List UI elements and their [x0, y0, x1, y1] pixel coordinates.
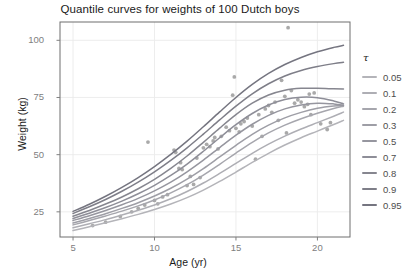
legend-key-line-icon [362, 124, 377, 126]
legend-item[interactable]: 0.2 [362, 101, 420, 117]
legend-item[interactable]: 0.8 [362, 165, 420, 181]
legend-items: 0.050.10.20.30.50.70.80.90.95 [362, 69, 420, 213]
legend-item[interactable]: 0.95 [362, 197, 420, 213]
x-tick-label: 5 [58, 242, 88, 253]
legend-item[interactable]: 0.7 [362, 149, 420, 165]
legend-title: τ [363, 52, 420, 63]
legend-item[interactable]: 0.9 [362, 181, 420, 197]
x-tick-label: 10 [139, 242, 169, 253]
legend-item-label: 0.9 [383, 184, 396, 195]
legend-key-line-icon [362, 92, 377, 94]
legend-key-line-icon [362, 108, 377, 110]
legend-item-label: 0.95 [383, 200, 402, 211]
legend-item-label: 0.7 [383, 152, 396, 163]
x-tick-label: 15 [221, 242, 251, 253]
legend-item-label: 0.8 [383, 168, 396, 179]
legend-item-label: 0.05 [383, 72, 402, 83]
legend-item-label: 0.5 [383, 136, 396, 147]
legend-key-line-icon [362, 172, 377, 174]
legend-item-label: 0.3 [383, 120, 396, 131]
legend-key-line-icon [362, 156, 377, 158]
legend-item-label: 0.1 [383, 88, 396, 99]
quantile-curve-chart: Quantile curves for weights of 100 Dutch… [0, 0, 420, 276]
legend: τ 0.050.10.20.30.50.70.80.90.95 [362, 52, 420, 213]
legend-key-line-icon [362, 204, 377, 206]
legend-item[interactable]: 0.3 [362, 117, 420, 133]
legend-item-label: 0.2 [383, 104, 396, 115]
legend-key-line-icon [362, 188, 377, 190]
legend-key-line-icon [362, 76, 377, 78]
legend-item[interactable]: 0.05 [362, 69, 420, 85]
x-tick-label: 20 [302, 242, 332, 253]
legend-key-line-icon [362, 140, 377, 142]
legend-item[interactable]: 0.5 [362, 133, 420, 149]
legend-item[interactable]: 0.1 [362, 85, 420, 101]
x-axis-ticks: 5101520 [0, 0, 420, 276]
